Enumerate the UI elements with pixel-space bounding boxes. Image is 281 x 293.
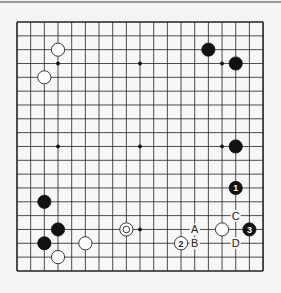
white-stone	[51, 251, 64, 264]
star-point	[56, 145, 60, 149]
move-number-3: 3	[247, 225, 252, 235]
black-stone	[202, 43, 215, 56]
black-stone	[229, 140, 242, 153]
black-stone	[38, 237, 51, 250]
star-point	[220, 145, 224, 149]
board-letter-d: D	[232, 237, 240, 249]
white-stone	[120, 223, 133, 236]
move-number-1: 1	[233, 183, 238, 193]
star-point	[138, 228, 142, 232]
star-point	[138, 145, 142, 149]
board-letter-a: A	[191, 223, 199, 235]
star-point	[220, 62, 224, 66]
star-point	[138, 62, 142, 66]
go-board: ABCD123	[0, 0, 281, 293]
board-letter-c: C	[232, 210, 240, 222]
star-point	[56, 62, 60, 66]
board-letter-b: B	[191, 237, 198, 249]
white-stone	[79, 237, 92, 250]
white-stone	[215, 223, 228, 236]
black-stone	[229, 57, 242, 70]
white-stone	[51, 43, 64, 56]
black-stone	[38, 195, 51, 208]
white-stone	[38, 71, 51, 84]
black-stone	[51, 223, 64, 236]
move-number-2: 2	[179, 239, 184, 249]
